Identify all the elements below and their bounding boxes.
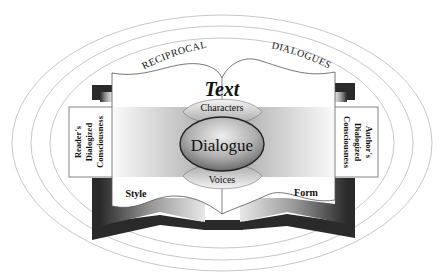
dialogue-label: Dialogue [191,136,253,155]
reader-line-3: Consciousness [95,115,105,168]
form-label: Form [294,187,319,198]
reader-line-2: Dialogized [84,123,94,162]
style-label: Style [125,188,147,199]
characters-label: Characters [201,102,244,113]
voices-label: Voices [209,174,236,185]
author-line-3: Consciousness [342,116,352,169]
reciprocal-dialogues-diagram: RECIPROCAL DIALOGUES Reader's Dialogized… [0,0,442,280]
page-edge-top-right [335,92,347,102]
author-line-2: Dialogized [353,123,363,162]
author-line-1: Author's [364,126,374,159]
page-edge-top-left [100,92,112,102]
reader-line-1: Reader's [73,125,83,158]
diagram-title: Text [205,78,241,100]
book-spine [203,220,243,230]
